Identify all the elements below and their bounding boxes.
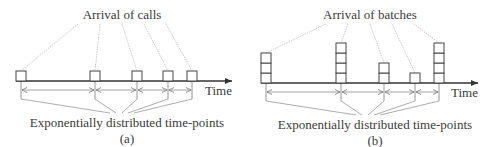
panel-a: Arrival of calls Time Exponentially dist… (16, 7, 232, 146)
arrival-leader-line (341, 24, 348, 43)
panel-b-title: Arrival of batches (323, 7, 417, 22)
arrival-box (336, 63, 346, 73)
panel-b-bottom-label: Exponentially distributed time-points (278, 117, 472, 132)
arrival-box (410, 73, 420, 83)
time-point-leader-line (368, 101, 384, 115)
arrival-process-diagram: Arrival of calls Time Exponentially dist… (0, 0, 495, 147)
arrival-box (336, 53, 346, 63)
panel-a-time-label: Time (205, 83, 232, 98)
arrival-box (336, 43, 346, 53)
time-point-leader-line (21, 99, 110, 113)
arrival-leader-line (392, 24, 415, 73)
panel-a-title: Arrival of calls (83, 7, 162, 22)
arrival-box (434, 73, 444, 83)
arrival-box (434, 43, 444, 53)
panel-b-intervals (266, 83, 439, 101)
arrival-leader-line (166, 24, 192, 71)
panel-b-caption: (b) (367, 133, 382, 147)
arrival-leader-line (144, 24, 168, 71)
arrival-box (261, 73, 271, 83)
arrival-box (379, 63, 389, 73)
arrival-leader-line (21, 24, 78, 71)
arrival-box (187, 71, 197, 81)
arrival-box (163, 71, 173, 81)
arrival-box (434, 53, 444, 63)
arrival-box (261, 53, 271, 63)
arrival-leader-line (266, 24, 326, 53)
panel-b-batch-boxes (261, 43, 444, 83)
arrival-box (434, 63, 444, 73)
arrival-leader-line (122, 24, 137, 71)
arrival-box (379, 73, 389, 83)
panel-a-arrival-boxes (16, 71, 197, 81)
panel-b-leaders (266, 24, 439, 115)
panel-a-intervals (21, 81, 192, 99)
panel-b: Arrival of batches Time Exponentially di… (261, 7, 478, 147)
arrival-box (261, 63, 271, 73)
arrival-box (16, 71, 26, 81)
panel-a-caption: (a) (120, 131, 134, 146)
arrival-box (132, 71, 142, 81)
arrival-box (90, 71, 100, 81)
arrival-leader-line (414, 24, 439, 43)
panel-b-time-label: Time (451, 85, 478, 100)
panel-a-bottom-label: Exponentially distributed time-points (30, 115, 224, 130)
arrival-box (336, 73, 346, 83)
arrival-leader-line (95, 24, 100, 71)
panel-a-leaders (21, 24, 192, 113)
time-point-leader-line (266, 101, 356, 115)
arrival-leader-line (370, 24, 384, 63)
